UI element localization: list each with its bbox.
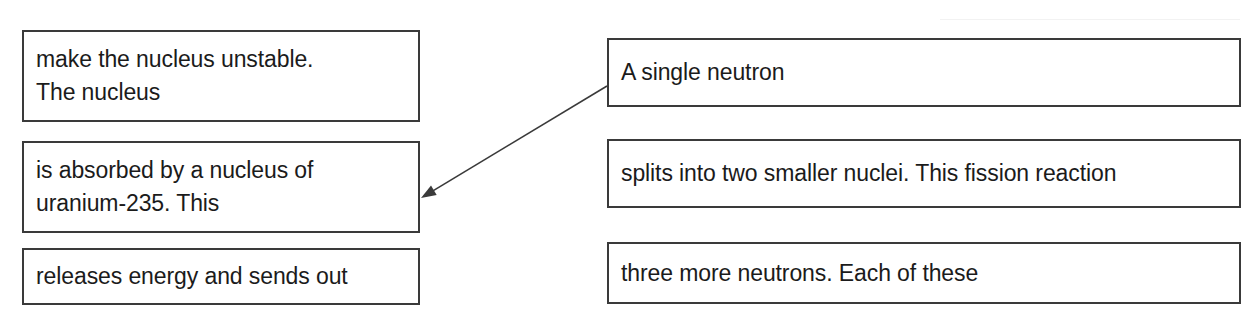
fragment-text-make-nucleus-unstable: make the nucleus unstable. The nucleus — [36, 43, 313, 109]
fragment-box-single-neutron[interactable]: A single neutron — [607, 38, 1241, 107]
fragment-text-single-neutron: A single neutron — [621, 56, 784, 89]
fragment-box-three-more-neutrons[interactable]: three more neutrons. Each of these — [607, 242, 1241, 304]
worksheet-canvas: make the nucleus unstable. The nucleus i… — [0, 0, 1254, 314]
fragment-box-splits-into-two[interactable]: splits into two smaller nuclei. This fis… — [607, 139, 1241, 208]
fragment-box-make-nucleus-unstable[interactable]: make the nucleus unstable. The nucleus — [22, 30, 420, 122]
fragment-box-absorbed-by-nucleus[interactable]: is absorbed by a nucleus of uranium-235.… — [22, 141, 420, 233]
fragment-box-releases-energy[interactable]: releases energy and sends out — [22, 248, 420, 305]
arrow-single-neutron-to-absorbed-by-nucleus — [421, 86, 607, 198]
arrow-line — [430, 86, 607, 192]
scan-artifact-line — [940, 19, 1240, 20]
fragment-text-releases-energy: releases energy and sends out — [36, 260, 348, 293]
fragment-text-three-more-neutrons: three more neutrons. Each of these — [621, 257, 978, 290]
arrow-head-icon — [421, 186, 437, 198]
fragment-text-splits-into-two: splits into two smaller nuclei. This fis… — [621, 157, 1116, 190]
fragment-text-absorbed-by-nucleus: is absorbed by a nucleus of uranium-235.… — [36, 154, 313, 220]
